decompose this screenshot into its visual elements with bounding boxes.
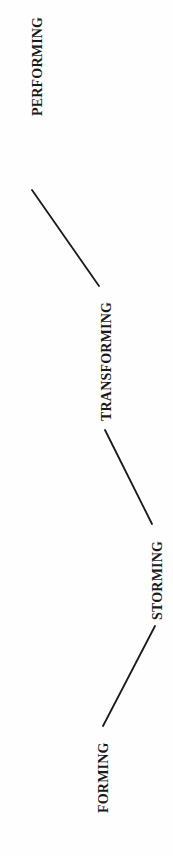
connector-performing-transforming [32, 190, 99, 286]
stage-label-performing: PERFORMING [30, 17, 46, 116]
diagram-canvas: PERFORMING TRANSFORMING STORMING FORMING [0, 0, 173, 856]
connector-storming-forming [103, 626, 155, 726]
connector-layer [0, 0, 173, 856]
connector-transforming-storming [105, 430, 152, 524]
stage-label-forming: FORMING [96, 742, 112, 813]
stage-label-transforming: TRANSFORMING [99, 302, 115, 421]
stage-label-storming: STORMING [150, 541, 166, 620]
